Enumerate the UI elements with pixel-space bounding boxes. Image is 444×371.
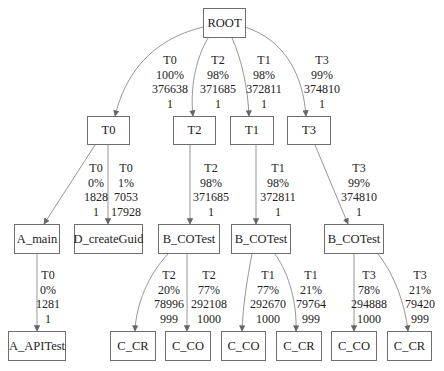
percent: 98% [200, 68, 236, 83]
call-count: 17928 [111, 205, 141, 220]
edge-label: T277%2921081000 [191, 268, 227, 326]
thread-id: T2 [191, 268, 227, 283]
edge-label: T321%79420999 [405, 268, 435, 326]
time-value: 1281 [36, 297, 60, 312]
percent: 21% [405, 283, 435, 298]
percent: 98% [193, 176, 229, 191]
time-value: 374810 [341, 190, 377, 205]
thread-id: T1 [296, 268, 326, 283]
thread-id: T0 [152, 53, 188, 68]
edge-label: T298%3716851 [193, 161, 229, 219]
thread-id: T3 [304, 53, 340, 68]
call-count: 999 [154, 312, 184, 327]
call-count: 1 [260, 205, 296, 220]
thread-id: T0 [111, 161, 141, 176]
percent: 78% [351, 283, 387, 298]
node-c_cr_t2[interactable]: C_CR [110, 331, 156, 361]
node-c_cr_t1[interactable]: C_CR [276, 331, 322, 361]
call-count: 1000 [191, 312, 227, 327]
percent: 20% [154, 283, 184, 298]
time-value: 374810 [304, 82, 340, 97]
node-root[interactable]: ROOT [203, 8, 246, 38]
call-count: 1 [152, 97, 188, 112]
thread-id: T3 [351, 268, 387, 283]
node-c_co_t2[interactable]: C_CO [165, 331, 211, 361]
edge-label: T198%3728111 [260, 161, 296, 219]
thread-id: T3 [341, 161, 377, 176]
time-value: 372811 [260, 190, 296, 205]
edge-label: T298%3716851 [200, 53, 236, 111]
time-value: 1828 [84, 190, 108, 205]
time-value: 7053 [111, 190, 141, 205]
thread-id: T1 [260, 161, 296, 176]
time-value: 372811 [246, 82, 282, 97]
time-value: 79420 [405, 297, 435, 312]
edge-label: T00%18281 [84, 161, 108, 219]
edge-label: T198%3728111 [246, 53, 282, 111]
call-count: 1 [341, 205, 377, 220]
thread-id: T2 [193, 161, 229, 176]
node-a_apitest[interactable]: A_APITest [8, 331, 66, 361]
node-t1[interactable]: T1 [230, 116, 274, 145]
percent: 77% [250, 283, 286, 298]
node-a_main[interactable]: A_main [14, 224, 60, 254]
percent: 0% [36, 283, 60, 298]
edge-label: T121%79764999 [296, 268, 326, 326]
call-count: 1 [193, 205, 229, 220]
node-b_cotest_t1[interactable]: B_COTest [231, 224, 291, 254]
time-value: 371685 [193, 190, 229, 205]
percent: 99% [304, 68, 340, 83]
percent: 0% [84, 176, 108, 191]
thread-id: T2 [200, 53, 236, 68]
thread-id: T0 [36, 268, 60, 283]
percent: 98% [260, 176, 296, 191]
percent: 77% [191, 283, 227, 298]
thread-id: T0 [84, 161, 108, 176]
call-count: 1000 [351, 312, 387, 327]
percent: 100% [152, 68, 188, 83]
edge-label: T0100%3766381 [152, 53, 188, 111]
time-value: 376638 [152, 82, 188, 97]
percent: 99% [341, 176, 377, 191]
call-count: 1 [246, 97, 282, 112]
thread-id: T2 [154, 268, 184, 283]
call-count: 999 [405, 312, 435, 327]
percent: 1% [111, 176, 141, 191]
call-count: 1 [84, 205, 108, 220]
edge-label: T177%2926701000 [250, 268, 286, 326]
time-value: 79764 [296, 297, 326, 312]
time-value: 371685 [200, 82, 236, 97]
call-count: 1 [36, 312, 60, 327]
node-t2[interactable]: T2 [173, 116, 216, 145]
call-count: 1 [304, 97, 340, 112]
percent: 98% [246, 68, 282, 83]
edge-label: T01%705317928 [111, 161, 141, 219]
time-value: 78996 [154, 297, 184, 312]
thread-id: T1 [250, 268, 286, 283]
node-c_cr_t3[interactable]: C_CR [387, 331, 432, 361]
thread-id: T3 [405, 268, 435, 283]
edge-label: T00%12811 [36, 268, 60, 326]
percent: 21% [296, 283, 326, 298]
edge-label: T220%78996999 [154, 268, 184, 326]
node-b_cotest_t2[interactable]: B_COTest [158, 224, 220, 254]
edge-label: T399%3748101 [341, 161, 377, 219]
node-t3[interactable]: T3 [287, 116, 331, 145]
node-t0[interactable]: T0 [87, 116, 130, 145]
node-c_co_t3[interactable]: C_CO [331, 331, 377, 361]
node-c_co_t1[interactable]: C_CO [221, 331, 266, 361]
node-d_createguid[interactable]: D_createGuid [74, 224, 143, 254]
time-value: 292670 [250, 297, 286, 312]
edge-label: T378%2948881000 [351, 268, 387, 326]
time-value: 294888 [351, 297, 387, 312]
edge-label: T399%3748101 [304, 53, 340, 111]
node-b_cotest_t3[interactable]: B_COTest [324, 224, 384, 254]
call-count: 1 [200, 97, 236, 112]
call-count: 1000 [250, 312, 286, 327]
call-count: 999 [296, 312, 326, 327]
time-value: 292108 [191, 297, 227, 312]
thread-id: T1 [246, 53, 282, 68]
